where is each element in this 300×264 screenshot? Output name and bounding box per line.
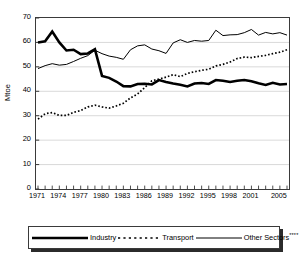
legend-item-transport[interactable]: Transport [117,233,194,243]
y-axis-tick-label: 30 [15,111,31,119]
y-axis-tick-label: 70 [15,13,31,21]
y-axis-title: Mtoe [3,73,12,113]
y-axis-tick-label: 10 [15,160,31,168]
x-axis-tick-label: 2001 [238,192,262,200]
y-axis-tick-label: 20 [15,135,31,143]
legend-item-other-sectors[interactable]: Other Sectors**** [195,232,300,242]
x-axis-tick-label: 2005 [267,192,291,200]
chart-legend: IndustryTransportOther Sectors**** [28,226,280,249]
chart-figure: Mtoe 010203040506070 1971197419771980198… [0,0,300,264]
legend-label: Industry [89,233,117,242]
plot-area [35,17,290,190]
legend-label: Transport [161,233,194,242]
series-lines [36,18,289,189]
legend-swatch-thin-solid [195,233,243,243]
series-line-other-sectors [38,29,287,68]
y-axis-tick-label: 50 [15,62,31,70]
legend-swatch-thick-solid [31,233,89,243]
y-axis-tick-label: 60 [15,37,31,45]
legend-label: Other Sectors**** [243,232,300,242]
y-axis-tick-label: 40 [15,86,31,94]
legend-swatch-dotted [117,233,161,243]
legend-label-footnote-marker: **** [289,232,298,238]
legend-item-industry[interactable]: Industry [31,233,117,243]
